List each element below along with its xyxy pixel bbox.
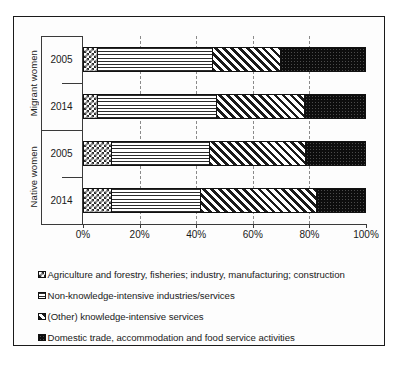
bar-segment-knowledge[interactable]: [201, 189, 318, 212]
legend-item-knowledge[interactable]: (Other) knowledge-intensive services: [38, 306, 368, 327]
year-label-axis: 2005 2014 2005 2014: [41, 36, 82, 224]
legend-swatch-horizontal-lines-icon: [38, 292, 46, 300]
bar-segment-domestic-trade[interactable]: [281, 48, 365, 71]
legend-swatch-diagonal-stripes-icon: [38, 313, 46, 321]
legend-item-non-knowledge[interactable]: Non-knowledge-intensive industries/servi…: [38, 285, 368, 306]
legend-label-non-knowledge: Non-knowledge-intensive industries/servi…: [48, 290, 235, 301]
x-tick-20: [140, 224, 141, 228]
group-label-native-women-text: Native women: [28, 146, 39, 207]
bar-segment-agriculture[interactable]: [84, 189, 112, 212]
bar-segment-agriculture[interactable]: [84, 95, 98, 118]
bar-row-native-2014[interactable]: [83, 188, 366, 213]
bar-row-migrant-2014[interactable]: [83, 94, 366, 119]
bar-segment-domestic-trade[interactable]: [317, 189, 365, 212]
bar-segment-knowledge[interactable]: [217, 95, 304, 118]
group-label-migrant-women: Migrant women: [25, 36, 41, 130]
x-tick-label-40: 40%: [173, 229, 219, 240]
bar-row-migrant-2005[interactable]: [83, 47, 366, 72]
bar-segment-non-knowledge[interactable]: [112, 189, 201, 212]
plot-area: Migrant women Native women 2005 2014 200…: [20, 24, 378, 236]
group-label-migrant-women-text: Migrant women: [28, 50, 39, 116]
bar-segment-non-knowledge[interactable]: [112, 142, 210, 165]
legend-label-knowledge: (Other) knowledge-intensive services: [48, 311, 204, 322]
bars-container: [83, 36, 366, 224]
legend-item-domestic-trade[interactable]: Domestic trade, accommodation and food s…: [38, 327, 368, 348]
x-axis-line: [83, 224, 366, 225]
bar-segment-domestic-trade[interactable]: [306, 142, 365, 165]
x-tick-100: [366, 224, 367, 228]
group-label-axis: Migrant women Native women: [25, 36, 41, 224]
bar-segment-knowledge[interactable]: [210, 142, 306, 165]
year-label-native-2014: 2014: [41, 177, 82, 224]
x-tick-label-100: 100%: [343, 229, 389, 240]
legend-swatch-solid-black-icon: [38, 334, 46, 342]
bar-row-native-2005[interactable]: [83, 141, 366, 166]
bar-segment-agriculture[interactable]: [84, 142, 112, 165]
bar-segment-non-knowledge[interactable]: [98, 95, 217, 118]
year-label-migrant-2005: 2005: [41, 36, 82, 83]
bar-segment-domestic-trade[interactable]: [305, 95, 365, 118]
bar-segment-non-knowledge[interactable]: [98, 48, 213, 71]
legend-label-domestic-trade: Domestic trade, accommodation and food s…: [48, 332, 295, 343]
x-tick-label-80: 80%: [286, 229, 332, 240]
bar-segment-knowledge[interactable]: [213, 48, 280, 71]
year-label-native-2005: 2005: [41, 130, 82, 177]
group-label-native-women: Native women: [25, 130, 41, 224]
x-tick-80: [309, 224, 310, 228]
x-tick-40: [196, 224, 197, 228]
year-label-migrant-2014: 2014: [41, 83, 82, 130]
chart-figure-frame: Migrant women Native women 2005 2014 200…: [13, 16, 385, 346]
legend-item-agriculture[interactable]: Agriculture and forestry, fisheries; ind…: [38, 264, 368, 285]
bar-segment-agriculture[interactable]: [84, 48, 98, 71]
legend-label-agriculture: Agriculture and forestry, fisheries; ind…: [48, 269, 345, 280]
x-tick-label-0: 0%: [60, 229, 106, 240]
x-tick-label-60: 60%: [230, 229, 276, 240]
x-tick-0: [83, 224, 84, 228]
chart-legend: Agriculture and forestry, fisheries; ind…: [38, 264, 368, 348]
x-tick-label-20: 20%: [117, 229, 163, 240]
legend-swatch-checkerboard-icon: [38, 271, 46, 279]
x-tick-60: [253, 224, 254, 228]
